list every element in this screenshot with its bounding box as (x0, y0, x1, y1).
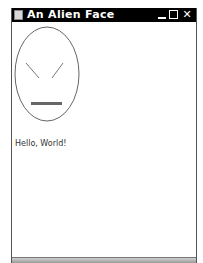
minimize-icon (158, 17, 166, 19)
window-bottom-border[interactable] (12, 257, 196, 263)
left-eye (26, 63, 39, 78)
face-outline (15, 27, 79, 121)
close-button[interactable]: ✕ (181, 9, 193, 21)
close-icon: ✕ (182, 8, 191, 21)
app-window: An Alien Face ✕ Hello, World! (11, 8, 197, 263)
mouth (31, 102, 62, 105)
maximize-button[interactable] (168, 9, 180, 21)
maximize-icon (169, 10, 178, 19)
title-bar[interactable]: An Alien Face ✕ (12, 8, 196, 22)
minimize-button[interactable] (156, 9, 168, 21)
drawing-canvas: Hello, World! (12, 22, 196, 258)
window-title: An Alien Face (27, 8, 115, 22)
right-eye (52, 63, 63, 78)
app-icon[interactable] (14, 10, 23, 20)
greeting-text: Hello, World! (15, 139, 67, 148)
